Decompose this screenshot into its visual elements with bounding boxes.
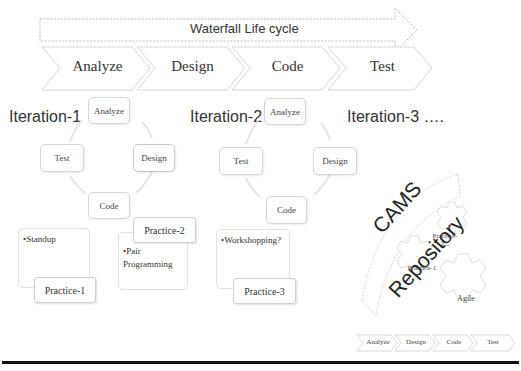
gear-icon-agile	[440, 254, 486, 299]
iter1-code-box: Code	[88, 192, 130, 219]
mini-flow-analyze: Analyze	[362, 338, 394, 346]
practice-3-tag: Practice-3	[233, 278, 296, 304]
iter1-analyze-box: Analyze	[88, 97, 130, 124]
iter1-test-box: Test	[40, 144, 84, 172]
iter2-test-box: Test	[219, 147, 263, 175]
iter2-code-box: Code	[266, 196, 307, 224]
practice-3-item: •Workshopping?	[221, 235, 281, 245]
mini-flow-test: Test	[476, 338, 510, 346]
bottom-divider	[2, 361, 519, 364]
practice-1-tag: Practice-1	[34, 277, 96, 303]
practice-1-item: •Standup	[23, 234, 56, 244]
practice-2-item: •Pair Programming	[123, 246, 173, 269]
mini-flow-code: Code	[438, 338, 470, 346]
mini-flow-design: Design	[400, 338, 432, 346]
iter2-analyze-box: Analyze	[264, 98, 306, 125]
iter1-design-box: Design	[133, 144, 175, 172]
gear-label-agile: Agile	[451, 294, 481, 303]
practice-2-tag: Practice-2	[133, 217, 196, 243]
